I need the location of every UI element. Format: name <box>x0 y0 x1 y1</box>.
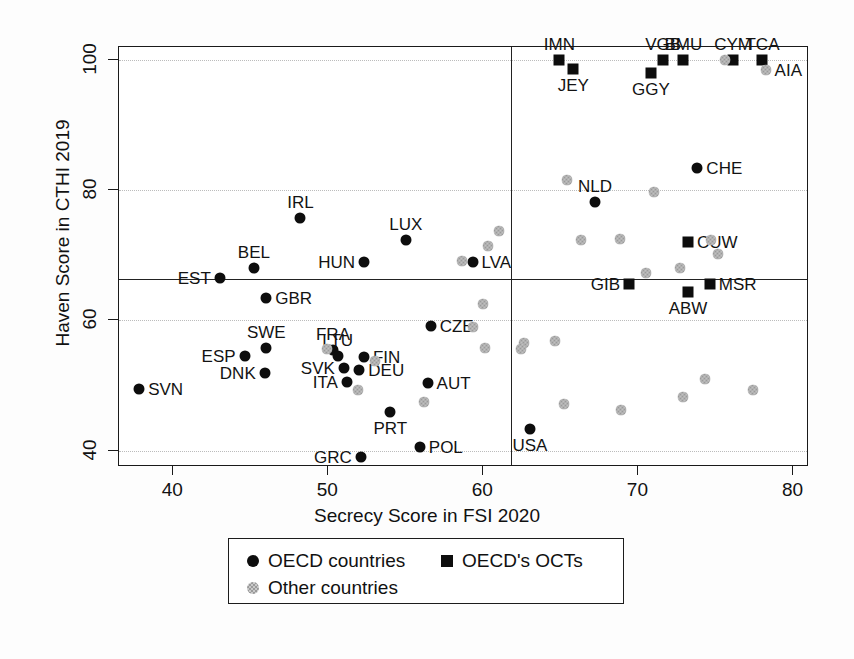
x-tick-mark-40 <box>172 466 173 475</box>
data-point <box>419 396 430 407</box>
data-point-deu <box>354 364 365 375</box>
x-tick-label-80: 80 <box>782 479 803 501</box>
data-point <box>576 234 587 245</box>
data-point-abw <box>683 286 694 297</box>
point-label-imn: IMN <box>544 36 575 53</box>
point-label-dnk: DNK <box>220 364 256 381</box>
data-point <box>515 344 526 355</box>
point-label-svn: SVN <box>148 380 183 397</box>
data-point-irl <box>295 212 306 223</box>
legend-label: OECD countries <box>268 550 405 572</box>
data-point <box>559 398 570 409</box>
point-label-msr: MSR <box>719 276 757 293</box>
gridline-y-40 <box>119 451 807 452</box>
data-point-nld <box>590 196 601 207</box>
data-point <box>562 174 573 185</box>
scatter-chart-figure: SVNESTBELESPSWEDNKGBRIRLFRALTUSVKITADEUF… <box>0 0 854 659</box>
chart-legend: OECD countries OECD's OCTs Other countri… <box>228 538 624 604</box>
data-point-gbr <box>261 292 272 303</box>
data-point <box>675 263 686 274</box>
point-label-abw: ABW <box>669 299 708 316</box>
x-tick-mark-60 <box>482 466 483 475</box>
point-label-irl: IRL <box>287 193 313 210</box>
data-point <box>616 404 627 415</box>
data-point <box>641 267 652 278</box>
x-tick-label-70: 70 <box>627 479 648 501</box>
legend-hatched-circle-marker-icon <box>247 582 259 594</box>
data-point-cuw <box>683 237 694 248</box>
point-label-est: EST <box>178 270 211 287</box>
legend-label: Other countries <box>268 577 398 599</box>
data-point <box>720 55 731 66</box>
y-axis-title: Haven Score in CTHI 2019 <box>52 43 74 423</box>
y-tick-mark-100 <box>108 59 118 60</box>
legend-item-other-countries: Other countries <box>247 577 398 599</box>
data-point <box>467 322 478 333</box>
data-point-lva <box>467 256 478 267</box>
data-point-svk <box>338 363 349 374</box>
data-point <box>483 240 494 251</box>
data-point <box>706 235 717 246</box>
data-point-grc <box>355 452 366 463</box>
data-point-dnk <box>259 367 270 378</box>
data-point-pol <box>414 441 425 452</box>
data-point-tca <box>757 55 768 66</box>
data-point-usa <box>524 423 535 434</box>
point-label-aut: AUT <box>437 375 471 392</box>
data-point <box>648 186 659 197</box>
point-label-gbr: GBR <box>275 289 312 306</box>
gridline-y-80 <box>119 190 807 191</box>
x-tick-label-40: 40 <box>162 479 183 501</box>
point-label-ita: ITA <box>313 374 338 391</box>
data-point <box>614 234 625 245</box>
data-point <box>678 391 689 402</box>
data-point-ita <box>341 377 352 388</box>
point-label-pol: POL <box>429 438 463 455</box>
data-point-imn <box>554 55 565 66</box>
data-point <box>748 385 759 396</box>
x-tick-label-60: 60 <box>472 479 493 501</box>
point-label-hun: HUN <box>318 253 355 270</box>
data-point-bmu <box>678 55 689 66</box>
data-point-aut <box>422 378 433 389</box>
legend-circle-marker-icon <box>247 555 259 567</box>
point-label-swe: SWE <box>247 323 286 340</box>
point-label-lux: LUX <box>389 216 422 233</box>
data-point-jey <box>568 64 579 75</box>
point-label-bmu: BMU <box>665 36 703 53</box>
y-tick-mark-40 <box>108 450 118 451</box>
data-point-swe <box>261 342 272 353</box>
data-point <box>321 344 332 355</box>
legend-item-oecd-octs: OECD's OCTs <box>441 550 583 572</box>
data-point-ggy <box>645 68 656 79</box>
y-tick-label-60: 60 <box>72 307 108 331</box>
point-label-usa: USA <box>512 436 547 453</box>
x-tick-mark-80 <box>792 466 793 475</box>
point-label-aia: AIA <box>775 62 802 79</box>
data-point <box>700 374 711 385</box>
x-axis-title: Secrecy Score in FSI 2020 <box>0 505 854 527</box>
legend-square-marker-icon <box>441 555 453 567</box>
data-point-che <box>692 163 703 174</box>
data-point-aia <box>760 65 771 76</box>
data-point <box>456 255 467 266</box>
data-point-prt <box>385 406 396 417</box>
data-point <box>478 299 489 310</box>
y-tick-label-100: 100 <box>72 47 108 71</box>
data-point-cze <box>425 320 436 331</box>
point-label-prt: PRT <box>373 419 407 436</box>
data-point <box>369 355 380 366</box>
legend-label: OECD's OCTs <box>462 550 583 572</box>
data-point <box>479 343 490 354</box>
point-label-grc: GRC <box>314 449 352 466</box>
data-point <box>549 335 560 346</box>
point-label-lva: LVA <box>482 253 512 270</box>
x-tick-mark-50 <box>327 466 328 475</box>
point-label-tca: TCA <box>745 36 779 53</box>
data-point <box>493 225 504 236</box>
point-label-jey: JEY <box>558 77 589 94</box>
y-tick-mark-80 <box>108 189 118 190</box>
plot-area: SVNESTBELESPSWEDNKGBRIRLFRALTUSVKITADEUF… <box>118 46 808 466</box>
point-label-bel: BEL <box>238 244 270 261</box>
data-point <box>352 385 363 396</box>
